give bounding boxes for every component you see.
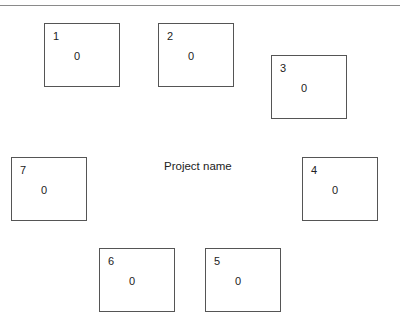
node-box-5: 5 0 (205, 248, 281, 312)
project-name-label: Project name (164, 160, 232, 172)
node-value: 0 (129, 275, 135, 287)
node-box-4: 4 0 (302, 157, 378, 221)
top-divider-line (0, 5, 400, 6)
node-value: 0 (235, 275, 241, 287)
node-number: 7 (20, 164, 26, 176)
node-number: 6 (108, 255, 114, 267)
node-value: 0 (332, 184, 338, 196)
node-box-6: 6 0 (99, 248, 175, 312)
node-value: 0 (188, 50, 194, 62)
node-value: 0 (74, 50, 80, 62)
node-value: 0 (41, 184, 47, 196)
node-box-7: 7 0 (11, 157, 87, 221)
node-number: 3 (280, 62, 286, 74)
node-number: 2 (167, 30, 173, 42)
node-box-2: 2 0 (158, 23, 234, 87)
node-box-1: 1 0 (44, 23, 120, 87)
node-number: 4 (311, 164, 317, 176)
node-value: 0 (301, 82, 307, 94)
node-number: 1 (53, 30, 59, 42)
node-box-3: 3 0 (271, 55, 347, 119)
node-number: 5 (214, 255, 220, 267)
